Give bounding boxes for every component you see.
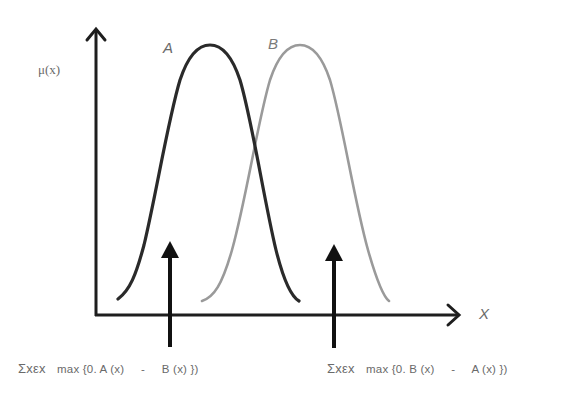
formula-expression: max {0. A (x) <box>57 363 124 375</box>
right-up-arrow <box>325 244 343 348</box>
formula-expression: max {0. B (x) <box>366 363 434 375</box>
y-axis-label: μ(x) <box>38 63 60 76</box>
sum-symbol: Σxεx <box>18 361 46 376</box>
formula-tail: A (x) }) <box>471 363 507 375</box>
curve-b-label: B <box>268 36 278 51</box>
curve-a <box>118 45 299 301</box>
formula-minus: - <box>451 363 455 375</box>
formula-tail: B (x) }) <box>162 363 199 375</box>
left-up-arrow <box>161 241 179 347</box>
curve-b <box>202 45 389 301</box>
x-axis <box>95 305 459 325</box>
sum-symbol: Σxεx <box>327 361 355 376</box>
fuzzy-set-difference-diagram: μ(x) A B X Σxεx max {0. A (x) - B (x) })… <box>0 0 574 396</box>
diagram-canvas <box>0 0 574 396</box>
right-difference-formula: Σxεx max {0. B (x) - A (x) }) <box>327 362 508 376</box>
left-difference-formula: Σxεx max {0. A (x) - B (x) }) <box>18 362 199 376</box>
curve-a-label: A <box>163 40 173 55</box>
y-axis <box>87 29 105 316</box>
formula-minus: - <box>141 363 145 375</box>
x-axis-label: X <box>479 306 489 321</box>
